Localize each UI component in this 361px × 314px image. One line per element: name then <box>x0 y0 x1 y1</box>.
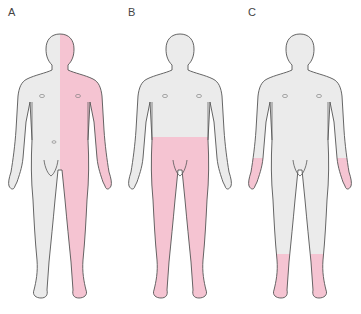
panel-c: C <box>240 0 360 314</box>
body-figure-c <box>240 0 360 314</box>
affected-region-left-hand <box>240 158 268 198</box>
affected-region-lower-limbs <box>148 137 212 314</box>
affected-region-right-half <box>60 0 120 314</box>
body-figure-b <box>120 0 240 314</box>
body-figure-a <box>0 0 120 314</box>
affected-region-right-hand <box>332 158 360 198</box>
panel-a: A <box>0 0 120 314</box>
panel-b: B <box>120 0 240 314</box>
